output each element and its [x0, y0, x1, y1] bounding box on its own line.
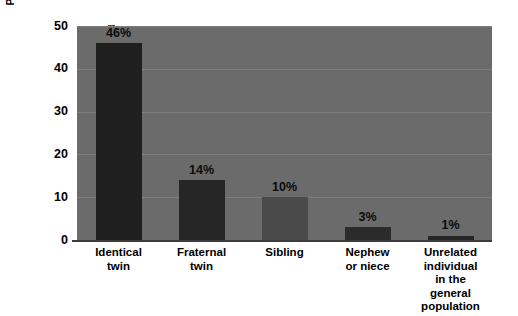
x-category-label: Identical twin	[77, 246, 160, 273]
bar	[179, 180, 225, 240]
x-category-label: Fraternal twin	[160, 246, 243, 273]
plot-area: 46%14%10%3%1%	[77, 26, 492, 240]
y-tick-label: 10	[40, 191, 68, 204]
y-tick-label: 50	[40, 20, 68, 33]
y-tick-label: 0	[40, 234, 68, 247]
bar-value-label: 46%	[79, 27, 159, 40]
x-axis-line	[72, 240, 492, 242]
x-category-label: Nephew or niece	[326, 246, 409, 273]
y-axis-title: Percentage of risk	[0, 0, 20, 66]
bar-chart: Percentage of risk 01020304050 46%14%10%…	[0, 0, 518, 316]
bar	[96, 43, 142, 240]
y-axis-tick-labels: 01020304050	[40, 0, 68, 316]
bar	[262, 197, 308, 240]
bar-value-label: 1%	[411, 219, 491, 232]
y-tick-label: 30	[40, 105, 68, 118]
y-tick-label: 40	[40, 62, 68, 75]
bar	[345, 227, 391, 240]
bar-value-label: 10%	[245, 181, 325, 194]
bar-value-label: 14%	[162, 164, 242, 177]
bar-value-label: 3%	[328, 211, 408, 224]
x-category-label: Sibling	[243, 246, 326, 260]
x-category-label: Unrelated individual in the general popu…	[409, 246, 492, 314]
x-axis-category-labels: Identical twinFraternal twinSiblingNephe…	[77, 246, 492, 316]
y-tick-label: 20	[40, 148, 68, 161]
